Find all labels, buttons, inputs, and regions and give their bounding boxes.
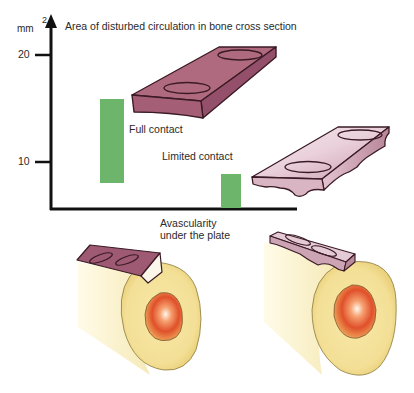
chart-title: Area of disturbed circulation in bone cr… <box>65 20 297 32</box>
y-axis-unit-superscript: 2 <box>42 14 47 26</box>
bar-limited-contact <box>221 174 241 208</box>
diagram-canvas <box>0 0 414 393</box>
x-axis-label-line2: under the plate <box>160 229 230 241</box>
bar-full-contact <box>100 99 124 183</box>
x-axis-label-line1: Avascularity <box>160 217 216 229</box>
tick-label-10: 10 <box>18 155 30 167</box>
full-contact-plate <box>132 47 276 118</box>
label-full-contact: Full contact <box>129 123 183 135</box>
label-limited-contact: Limited contact <box>162 150 233 162</box>
tick-label-20: 20 <box>18 48 30 60</box>
y-axis-unit: mm <box>17 23 34 35</box>
limited-contact-plate <box>252 127 389 196</box>
bone-section-limited-contact <box>264 232 396 375</box>
bone-section-full-contact <box>77 245 201 375</box>
y-axis <box>35 14 57 210</box>
